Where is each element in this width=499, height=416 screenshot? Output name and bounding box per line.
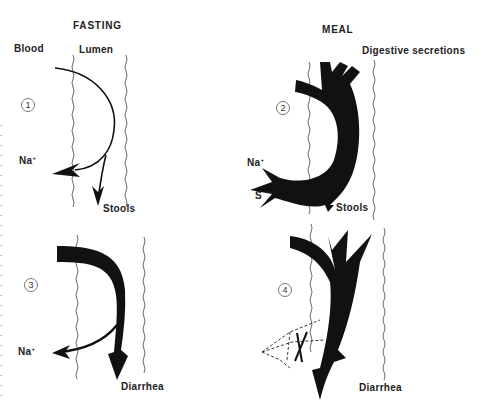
membrane-p1-right [125,55,127,207]
na-sup: + [32,155,36,161]
membrane-p4-right [383,228,385,380]
label-diarrhea-p4: Diarrhea [359,382,402,393]
na-text: Na [18,346,31,357]
panel-number-2: 2 [276,101,290,115]
label-na-p2: Na+ [247,157,264,168]
panel-number-3: 3 [24,278,38,292]
panel-3-flow [52,246,128,380]
membrane-p1-left [72,55,74,207]
label-blood: Blood [14,43,44,54]
label-stools-p1: Stools [103,203,135,214]
membrane-p2-right [373,60,375,220]
diagram-artwork [0,0,499,416]
label-diarrhea-p3: Diarrhea [121,381,164,392]
panel-4-flow [290,230,372,400]
label-digestive-secretions: Digestive secretions [362,45,465,56]
header-meal: MEAL [322,24,354,35]
panel-1-flow [55,68,114,200]
panel-number-4: 4 [278,283,292,297]
membrane-p3-right [143,237,145,373]
label-s: S [255,190,262,201]
panel-2-flow [250,62,360,212]
na-sup: + [31,346,35,352]
label-stools-p2: Stools [336,202,368,213]
na-sup: + [260,157,264,163]
header-fasting: FASTING [73,20,122,31]
panel-number-1: 1 [21,98,35,112]
panel-4-blocked-absorption [262,320,325,368]
na-text: Na [19,155,32,166]
na-text: Na [247,157,260,168]
label-na-p3: Na+ [18,346,35,357]
label-lumen: Lumen [79,44,113,55]
label-na-p1: Na+ [19,155,36,166]
cross-out-icon [295,332,307,362]
